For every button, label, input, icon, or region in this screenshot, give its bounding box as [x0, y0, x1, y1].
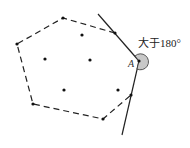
reflex-angle-marker	[135, 54, 149, 70]
points	[15, 16, 140, 120]
angle-label: 大于180°	[138, 36, 181, 49]
convex-hull-diagram: 大于180° A	[0, 0, 190, 148]
point-a-label: A	[127, 58, 135, 69]
solid-lines	[98, 14, 139, 135]
